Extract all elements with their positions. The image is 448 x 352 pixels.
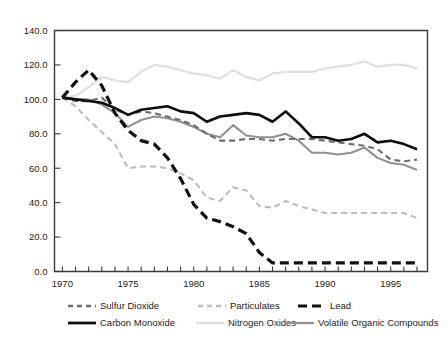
chart-container: 0.020.040.060.080.0100.0120.0140.0 19701… [0,0,448,352]
y-tick-label: 40.0 [29,197,48,208]
series-line-carbon-monoxide [62,98,417,150]
legend-label: Sulfur Dioxide [100,300,159,311]
legend-item[interactable]: Lead [298,300,351,311]
legend-label: Lead [330,300,351,311]
legend-item[interactable]: Carbon Monoxide [68,317,175,328]
plot-frame [55,31,428,272]
y-tick-label: 80.0 [29,128,48,139]
y-tick-label: 0.0 [34,266,47,277]
legend-item[interactable]: Sulfur Dioxide [68,300,159,311]
legend-label: Particulates [230,300,280,311]
x-tick-label: 1970 [52,278,73,289]
y-tick-label: 100.0 [24,94,48,105]
legend-label: Carbon Monoxide [100,317,175,328]
series-line-lead [62,70,417,263]
x-tick-label: 1995 [380,278,401,289]
data-series-group [62,61,417,262]
y-tick-label: 20.0 [29,231,48,242]
y-axis-tick-marks [55,31,61,272]
y-tick-label: 60.0 [29,163,48,174]
x-axis-tick-labels: 197019751980198519901995 [52,278,401,289]
y-tick-label: 120.0 [24,59,48,70]
legend-item[interactable]: Particulates [198,300,280,311]
chart-legend: Sulfur DioxideParticulatesLeadCarbon Mon… [68,300,439,328]
series-line-nitrogen-oxides [62,61,417,97]
x-tick-label: 1980 [183,278,204,289]
emissions-line-chart: 0.020.040.060.080.0100.0120.0140.0 19701… [0,0,448,352]
plot-border [55,31,428,272]
x-axis-tick-marks [62,267,417,272]
x-tick-label: 1975 [117,278,138,289]
legend-item[interactable]: Nitrogen Oxides [196,317,296,328]
x-tick-label: 1985 [249,278,270,289]
y-axis-tick-labels: 0.020.040.060.080.0100.0120.0140.0 [24,25,48,277]
legend-label: Volatile Organic Compounds [318,317,439,328]
x-tick-label: 1990 [314,278,335,289]
y-tick-label: 140.0 [24,25,48,36]
legend-item[interactable]: Volatile Organic Compounds [286,317,439,328]
